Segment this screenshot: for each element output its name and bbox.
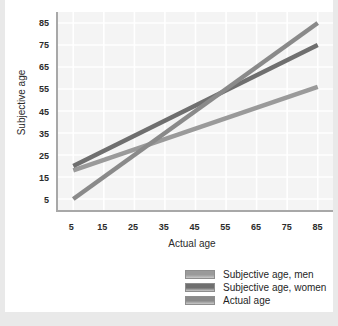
legend-swatch-icon xyxy=(185,270,215,279)
legend-label: Subjective age, men xyxy=(223,269,314,280)
legend-label: Actual age xyxy=(223,295,270,306)
series-lines xyxy=(58,12,333,210)
legend-item[interactable]: Subjective age, men xyxy=(185,268,335,280)
y-tick-label: 5 xyxy=(19,196,49,205)
legend-item[interactable]: Actual age xyxy=(185,294,335,306)
x-tick-label: 15 xyxy=(89,222,115,232)
x-tick-label: 5 xyxy=(58,222,84,232)
series-line-2 xyxy=(73,23,317,199)
chart-card: Subjective age 51525354555657585 5152535… xyxy=(5,0,333,312)
x-axis-title: Actual age xyxy=(51,238,333,249)
legend-swatch-icon xyxy=(185,296,215,305)
y-tick-label: 15 xyxy=(19,174,49,183)
plot-wrapper xyxy=(51,9,333,217)
y-tick-label: 45 xyxy=(19,108,49,117)
x-tick-label: 85 xyxy=(305,222,331,232)
y-tick-label: 35 xyxy=(19,130,49,139)
y-tick-label: 25 xyxy=(19,152,49,161)
x-tick-label: 75 xyxy=(274,222,300,232)
x-tick-label: 25 xyxy=(120,222,146,232)
y-tick-label: 65 xyxy=(19,63,49,72)
legend-item[interactable]: Subjective age, women xyxy=(185,281,335,293)
y-tick-label: 55 xyxy=(19,85,49,94)
x-tick-label: 45 xyxy=(182,222,208,232)
x-tick-label: 35 xyxy=(151,222,177,232)
plot-area xyxy=(56,12,333,212)
legend-swatch-icon xyxy=(185,283,215,292)
x-tick-label: 55 xyxy=(212,222,238,232)
y-axis-tick-labels: 51525354555657585 xyxy=(16,9,49,217)
chart-legend: Subjective age, menSubjective age, women… xyxy=(185,268,335,307)
y-tick-label: 85 xyxy=(19,19,49,28)
legend-label: Subjective age, women xyxy=(223,282,326,293)
x-axis-tick-labels: 51525354555657585 xyxy=(51,222,338,236)
series-line-1 xyxy=(73,45,317,166)
series-line-0 xyxy=(73,87,317,171)
x-tick-label: 65 xyxy=(243,222,269,232)
y-tick-label: 75 xyxy=(19,41,49,50)
